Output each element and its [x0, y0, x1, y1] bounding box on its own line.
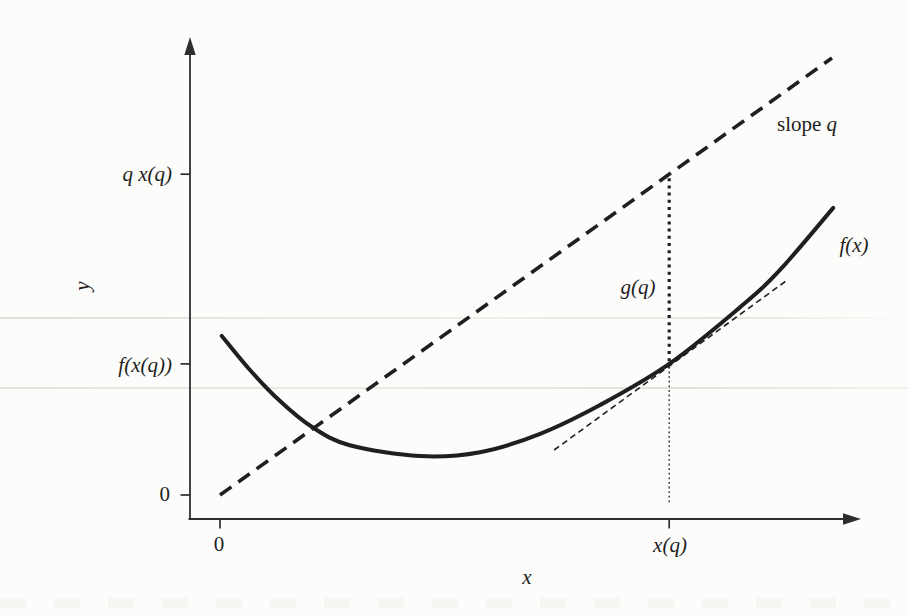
slope-q-annotation: slope q	[737, 112, 877, 136]
y-axis-arrow-icon	[184, 37, 195, 55]
plot-canvas	[0, 0, 908, 616]
x-axis-title: x	[487, 565, 567, 589]
y-tick-label-zero: 0	[60, 482, 170, 506]
g-q-annotation: g(q)	[598, 275, 678, 299]
x-axis-arrow-icon	[843, 513, 861, 525]
x-tick-label-xq: x(q)	[630, 533, 710, 557]
x-tick-label-zero: 0	[199, 532, 239, 556]
y-axis-title: y	[70, 266, 94, 306]
slope-word: slope	[777, 112, 821, 136]
f-x-annotation: f(x)	[814, 233, 894, 257]
legendre-transform-figure: q x(q) f(x(q)) 0 0 x(q) y x slope q g(q)…	[0, 0, 908, 616]
f-x-convex-curve	[222, 208, 833, 457]
y-tick-label-qxq: q x(q)	[60, 162, 172, 186]
y-tick-label-fxq: f(x(q))	[60, 353, 172, 377]
slope-variable: q	[827, 112, 838, 136]
